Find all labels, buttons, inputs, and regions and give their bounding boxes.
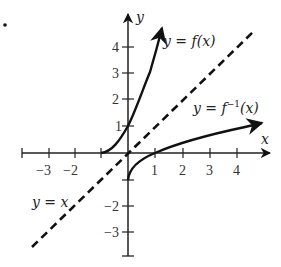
x-tick-label: −2	[63, 163, 78, 178]
x-tick-label: 1	[151, 163, 158, 178]
identity-label: y = x	[31, 194, 69, 210]
x-tick-label: 4	[233, 163, 240, 178]
identity-line	[32, 32, 253, 247]
y-tick-label: 3	[112, 66, 119, 81]
x-tick-label: 2	[179, 163, 186, 178]
f-inverse-curve	[128, 123, 262, 180]
f-label: y = f(x)	[162, 33, 216, 49]
y-tick-label: −3	[104, 225, 119, 240]
x-tick-label: 3	[206, 163, 213, 178]
x-tick-label: −3	[36, 163, 51, 178]
bullet-dot	[3, 23, 7, 27]
x-axis-label: x	[261, 131, 269, 147]
y-tick-label: 4	[112, 40, 119, 55]
f-inverse-label: y = f−1(x)	[192, 99, 259, 116]
function-inverse-graph: −3 −2 1 2 3 4 4 3 2 1 −2 −3 y x y = f(x)…	[0, 0, 281, 267]
y-axis-label: y	[135, 9, 145, 25]
y-tick-label: −2	[104, 199, 119, 214]
y-tick-label: 1	[115, 119, 122, 134]
y-tick-label: 2	[112, 92, 119, 107]
